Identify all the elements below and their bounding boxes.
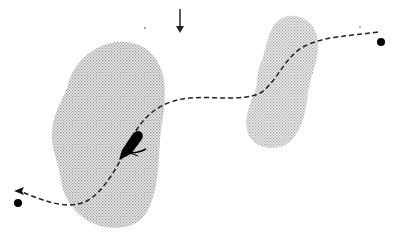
left-stipple-zone	[52, 42, 165, 228]
trajectory-diagram	[0, 0, 400, 243]
right-stipple-zone	[246, 16, 318, 148]
end-point-marker	[14, 199, 22, 207]
speck	[359, 26, 361, 28]
down-arrow-icon	[176, 9, 184, 33]
track-arrowhead-icon	[14, 187, 24, 195]
start-point-marker	[377, 38, 385, 46]
speck	[144, 27, 146, 29]
